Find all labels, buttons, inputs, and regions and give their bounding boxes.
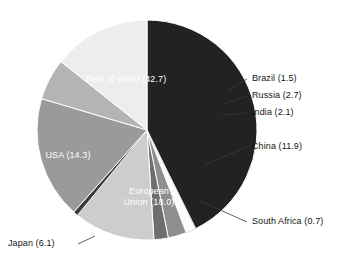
leader-line-japan: [78, 236, 95, 244]
slice-label-russia: Russia (2.7): [252, 90, 302, 101]
slice-label-european-union-line1: European: [104, 186, 194, 197]
slice-label-rest-of-world: Rest of world (42.7): [71, 74, 181, 85]
slice-label-china: China (11.9): [252, 141, 302, 152]
slice-label-european-union-line2: Union (18.0): [104, 197, 194, 208]
slice-label-japan: Japan (6.1): [8, 238, 55, 249]
slice-label-brazil: Brazil (1.5): [252, 73, 297, 84]
slice-label-south-africa: South Africa (0.7): [252, 216, 323, 227]
pie-chart: Rest of world (42.7) USA (14.3) European…: [0, 0, 353, 269]
cropped-header-text: [0, 0, 353, 7]
slice-label-usa: USA (14.3): [28, 150, 108, 161]
pie-chart-svg: [0, 0, 353, 269]
slice-label-india: India (2.1): [252, 107, 294, 118]
